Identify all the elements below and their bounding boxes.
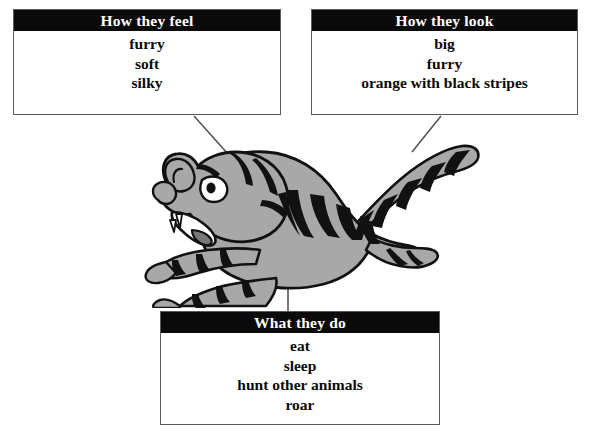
box-entry: soft xyxy=(14,54,280,74)
box-entry: furry xyxy=(14,34,280,54)
tiger-fang-lower xyxy=(170,220,176,232)
concept-box-how-they-feel[interactable]: How they feel furry soft silky xyxy=(13,9,281,115)
box-body-how-they-feel: furry soft silky xyxy=(14,31,280,96)
tiger-muzzle xyxy=(153,182,176,204)
tiger-front-paw-lower xyxy=(153,299,180,308)
box-entry: silky xyxy=(14,73,280,93)
box-entry: sleep xyxy=(161,356,439,376)
tiger-pupil xyxy=(206,183,215,194)
tiger-group xyxy=(146,146,479,308)
box-body-what-they-do: eat sleep hunt other animals roar xyxy=(161,333,439,417)
box-header-how-they-feel: How they feel xyxy=(14,10,280,31)
concept-box-how-they-look[interactable]: How they look big furry orange with blac… xyxy=(311,9,578,115)
box-entry: orange with black stripes xyxy=(312,73,577,93)
leaping-tiger-illustration xyxy=(110,138,480,308)
box-entry: hunt other animals xyxy=(161,375,439,395)
box-entry: roar xyxy=(161,395,439,415)
box-body-how-they-look: big furry orange with black stripes xyxy=(312,31,577,96)
box-entry: eat xyxy=(161,336,439,356)
diagram-canvas: How they feel furry soft silky How they … xyxy=(0,0,590,433)
box-header-what-they-do: What they do xyxy=(161,312,439,333)
box-entry: furry xyxy=(312,54,577,74)
box-header-how-they-look: How they look xyxy=(312,10,577,31)
concept-box-what-they-do[interactable]: What they do eat sleep hunt other animal… xyxy=(160,311,440,425)
box-entry: big xyxy=(312,34,577,54)
